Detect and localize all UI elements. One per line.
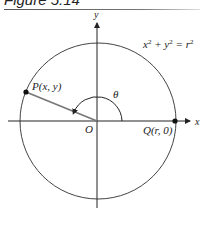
origin-label: O xyxy=(85,123,93,135)
point-p-label: P(x, y) xyxy=(31,80,62,93)
y-axis-label: y xyxy=(93,9,99,20)
radius-segment-op xyxy=(26,92,97,121)
x-axis-label: x xyxy=(194,116,200,127)
unit-circle-diagram: y x O θ P(x, y) Q(r, 0) x2 + y2 = r2 xyxy=(0,0,205,225)
theta-label: θ xyxy=(113,88,119,100)
point-q-label: Q(r, 0) xyxy=(143,124,173,137)
circle-equation: x2 + y2 = r2 xyxy=(142,38,194,50)
theta-arc xyxy=(74,97,122,121)
point-p xyxy=(23,89,28,94)
point-q xyxy=(172,118,177,123)
